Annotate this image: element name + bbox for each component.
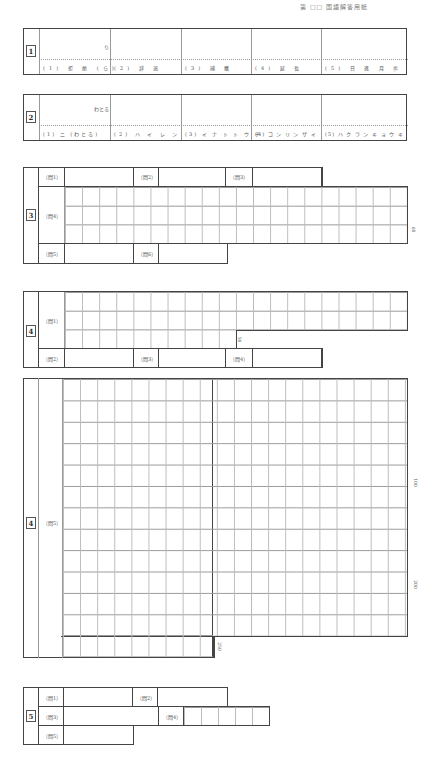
answer-grid-q5-tail[interactable] <box>63 635 213 657</box>
question-label: 〔問3〕 <box>230 173 248 180</box>
question-label: 〔問4〕 <box>163 713 181 720</box>
question-label: 〔問5〕 <box>43 519 61 526</box>
answer-grid-q4[interactable] <box>183 706 270 726</box>
answer-cell-4[interactable] <box>252 95 321 125</box>
answer-box-q6[interactable] <box>158 243 228 264</box>
item-label: (5) 日 進 月 歩 <box>322 60 408 74</box>
answer-cell-3[interactable] <box>182 95 251 125</box>
question-label: 〔問1〕 <box>43 694 61 701</box>
answer-grid-q4[interactable] <box>64 187 407 243</box>
answer-cell-5[interactable] <box>322 29 408 59</box>
question-label: 〔問2〕 <box>43 355 61 362</box>
section-4-part-2: 4 〔問5〕 100 200 250 <box>23 378 423 658</box>
answer-box-q3[interactable] <box>63 706 159 726</box>
answer-cell-3[interactable] <box>182 29 251 59</box>
page-header: 第 □□ 国語解答用紙 <box>300 2 436 10</box>
question-label: 〔問3〕 <box>138 355 156 362</box>
section-number: 1 <box>26 45 36 57</box>
question-label: 〔問4〕 <box>43 212 61 219</box>
answer-cell-1[interactable] <box>40 95 110 125</box>
section-number: 4 <box>26 517 36 529</box>
answer-cell-5[interactable] <box>322 95 408 125</box>
char-count: 50 <box>237 337 242 343</box>
item-label: (4) 延 長 <box>252 60 321 74</box>
answer-grid-q5[interactable] <box>63 379 407 636</box>
item-label: (2) 辞 退 <box>111 60 181 74</box>
answer-box-q5[interactable] <box>63 725 134 745</box>
answer-box-q1[interactable] <box>64 167 134 187</box>
char-count: 250 <box>217 642 222 651</box>
section-number: 3 <box>26 209 36 221</box>
item-label: (2) ハ イ レ ン <box>111 126 181 140</box>
answer-box-q2[interactable] <box>158 167 226 187</box>
answer-box-q3[interactable] <box>252 167 322 187</box>
answer-cell-2[interactable] <box>111 95 181 125</box>
item-label: (3) 捕 獲 <box>182 60 251 74</box>
answer-box-q3[interactable] <box>158 348 226 368</box>
question-label: 〔問6〕 <box>138 250 156 257</box>
section-number: 5 <box>26 710 36 722</box>
section-number: 2 <box>26 111 36 123</box>
answer-cell-4[interactable] <box>252 29 321 59</box>
answer-box-q4[interactable] <box>252 348 322 368</box>
question-label: 〔問4〕 <box>230 355 248 362</box>
section-4-part-1: 4 〔問1〕 50 〔問2〕 〔問3〕 〔問4〕 <box>23 291 423 368</box>
answer-cell-2[interactable] <box>111 29 181 59</box>
char-count: 200 <box>413 580 418 589</box>
question-label: 〔問2〕 <box>137 694 155 701</box>
answer-box-q5[interactable] <box>64 243 134 264</box>
question-label: 〔問1〕 <box>43 317 61 324</box>
char-count: 60 <box>411 227 416 233</box>
item-label: (1) 拒 絶 (ら) <box>40 60 110 74</box>
item-label: (1) ニ (わとる) <box>40 126 110 140</box>
section-number: 4 <box>26 325 36 337</box>
item-label: (5) ハ ク ラ ン キ ョ ウ キ <box>322 126 408 140</box>
item-label: (3) イ ナ ト ト ウ チ <box>182 126 251 140</box>
item-label: (4) コ ン リ ン ザ イ <box>252 126 321 140</box>
answer-box-q2[interactable] <box>64 348 134 368</box>
section-1: 1 り (1) 拒 絶 (ら) (2) 辞 退 (3) 捕 獲 (4) 延 長 … <box>23 28 407 75</box>
question-label: 〔問1〕 <box>43 173 61 180</box>
answer-box-q1[interactable] <box>63 687 133 707</box>
section-2: 2 わとる (1) ニ (わとる) (2) ハ イ レ ン (3) イ ナ ト … <box>23 94 407 141</box>
char-count: 100 <box>413 478 418 487</box>
answer-box-q2[interactable] <box>157 687 228 707</box>
question-label: 〔問3〕 <box>43 713 61 720</box>
section-5: 5 〔問1〕 〔問2〕 〔問3〕 〔問4〕 〔問5〕 <box>23 687 273 745</box>
question-label: 〔問2〕 <box>138 173 156 180</box>
answer-cell-1[interactable] <box>40 29 110 59</box>
question-label: 〔問5〕 <box>43 732 61 739</box>
section-3: 3 〔問1〕 〔問2〕 〔問3〕 〔問4〕 60 〔問5〕 〔問6〕 <box>23 167 423 264</box>
question-label: 〔問5〕 <box>43 250 61 257</box>
